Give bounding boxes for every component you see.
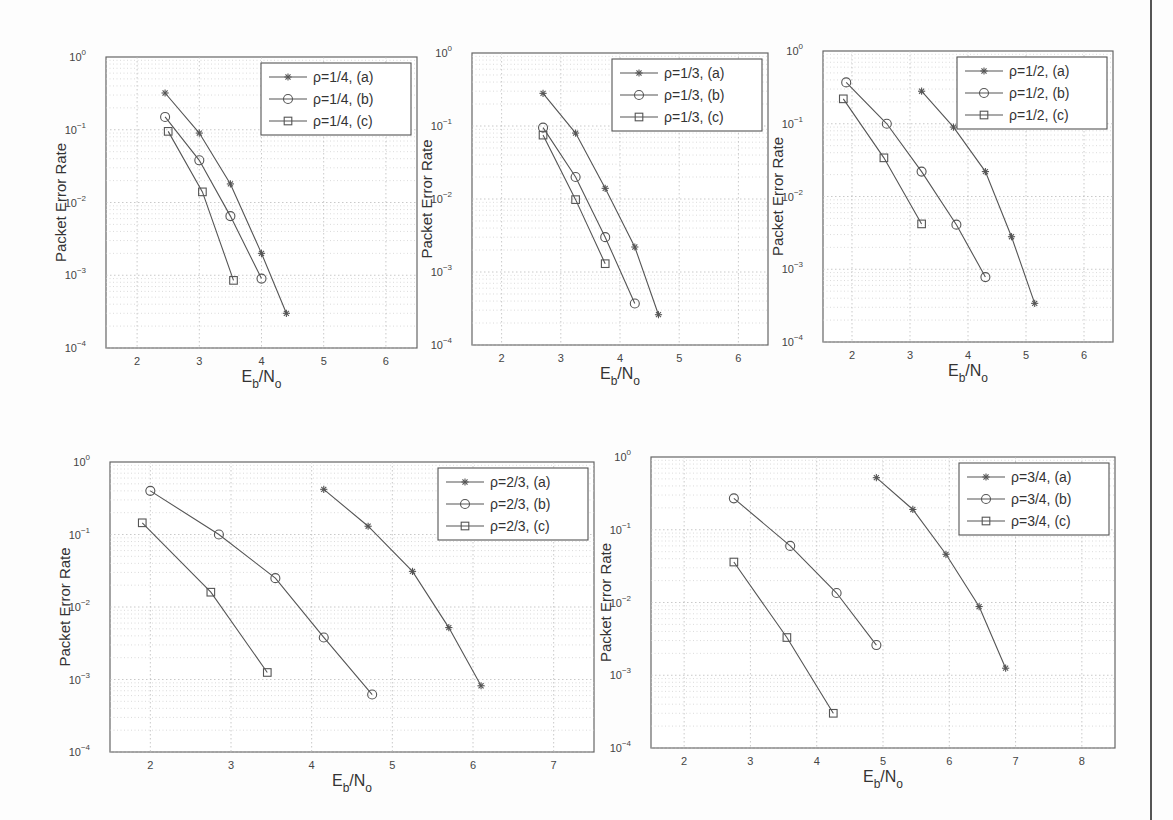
y-axis-label: Packet Error Rate <box>597 543 614 662</box>
x-tick-label: 5 <box>880 755 886 767</box>
legend: ρ=3/4, (a)ρ=3/4, (b)ρ=3/4, (c) <box>959 463 1109 535</box>
x-tick-label: 4 <box>814 755 820 767</box>
x-axis-label: Eb/No <box>863 768 903 791</box>
y-tick-label: 100 <box>614 448 631 463</box>
x-tick-label: 2 <box>681 755 687 767</box>
legend-label: ρ=3/4, (a) <box>1011 469 1072 485</box>
legend-label: ρ=3/4, (b) <box>1011 491 1072 507</box>
legend-label: ρ=3/4, (c) <box>1011 513 1071 529</box>
chart-rho-3-4: 234567810010−110−210−310−4Packet Error R… <box>0 0 1173 820</box>
y-tick-label: 10−3 <box>610 666 632 681</box>
star-marker-icon <box>1002 665 1009 672</box>
x-tick-label: 8 <box>1079 755 1085 767</box>
y-tick-label: 10−4 <box>610 739 632 754</box>
star-marker-icon <box>976 603 983 610</box>
x-tick-label: 3 <box>747 755 753 767</box>
x-tick-label: 6 <box>946 755 952 767</box>
star-marker-icon <box>942 551 949 558</box>
star-marker-icon <box>982 473 989 480</box>
y-tick-label: 10−1 <box>610 521 632 536</box>
star-marker-icon <box>873 474 880 481</box>
x-tick-label: 7 <box>1013 755 1019 767</box>
star-marker-icon <box>909 506 916 513</box>
